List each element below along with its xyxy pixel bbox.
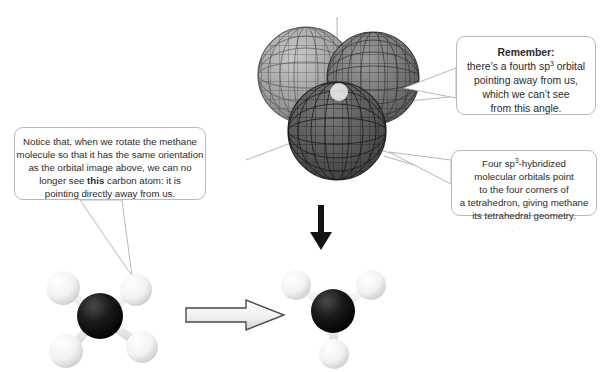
- remember-callout-line-4: from this angle.: [457, 102, 595, 116]
- hydrogen-atom: [120, 274, 152, 306]
- notice-callout-line-5: pointing directly away from us.: [15, 187, 205, 200]
- notice-callout-line-1: Notice that, when we rotate the methane: [15, 135, 205, 148]
- carbon-atom: [77, 293, 123, 339]
- remember-callout-line-3: which we can’t see: [457, 88, 595, 102]
- carbon-atom: [311, 289, 355, 333]
- remember-callout: Remember: there’s a fourth sp3 orbital p…: [456, 36, 596, 115]
- down-arrow: [310, 205, 332, 250]
- tetrahedral-callout-line-2: molecular orbitals point: [452, 170, 596, 183]
- hydrogen-atom: [319, 339, 349, 369]
- hydrogen-atom: [46, 271, 80, 305]
- notice-callout-line-2: molecule so that it has the same orienta…: [15, 148, 205, 161]
- notice-callout: Notice that, when we rotate the methane …: [14, 127, 206, 200]
- notice-callout-line-3: as the orbital image above, we can no: [15, 161, 205, 174]
- hydrogen-atom: [49, 334, 83, 368]
- tetrahedral-callout-line-5: its tetrahedral geometry.: [452, 209, 596, 222]
- remember-callout-line-2: pointing away from us,: [457, 74, 595, 88]
- methane-model-rotated: [281, 270, 386, 369]
- tetrahedral-callout-line-4: a tetrahedron, giving methane: [452, 196, 596, 209]
- tetrahedral-callout-line-1: Four sp3-hybridized: [452, 157, 596, 170]
- hydrogen-atom: [281, 270, 311, 300]
- remember-callout-line-1: there’s a fourth sp3 orbital: [457, 60, 595, 74]
- remember-callout-heading: Remember:: [457, 46, 595, 60]
- methane-model-cross: [46, 271, 158, 368]
- hydrogen-atom: [126, 331, 158, 363]
- scan-artifact: ·: [511, 228, 517, 236]
- emphasis-this: this: [87, 175, 104, 186]
- hydrogen-atom: [356, 270, 386, 300]
- right-arrow: [186, 300, 284, 330]
- notice-callout-line-4: longer see this carbon atom: it is: [15, 174, 205, 187]
- tetrahedral-callout: Four sp3-hybridized molecular orbitals p…: [451, 150, 597, 216]
- tetrahedral-callout-line-3: to the four corners of: [452, 183, 596, 196]
- diagram-canvas: Remember: there’s a fourth sp3 orbital p…: [0, 0, 602, 372]
